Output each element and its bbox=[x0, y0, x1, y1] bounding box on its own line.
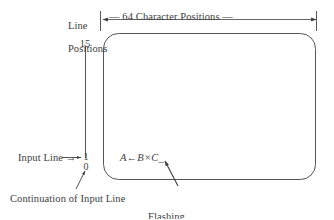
callout-label-flashing-cursor: Flashing Cursor bbox=[148, 187, 185, 219]
axis-label-line-positions-line1: Line bbox=[68, 20, 88, 31]
screen-expression-text: A←B×C_ bbox=[120, 152, 164, 163]
flashing-cursor-pointer-arrow bbox=[165, 161, 178, 186]
callout-label-input-line: Input Line → bbox=[18, 152, 76, 163]
apl-screen-diagram: Line Positions — 64 Character Positions … bbox=[0, 0, 334, 219]
callout-label-continuation-of-input-line: Continuation of Input Line bbox=[10, 193, 125, 204]
axis-tick-label-0: 0 bbox=[83, 162, 88, 173]
continuation-pointer-arrow bbox=[76, 171, 85, 189]
callout-label-flashing-cursor-line1: Flashing bbox=[148, 211, 185, 220]
apl-expression: A←B×C bbox=[120, 152, 158, 163]
dimension-label-character-positions: — 64 Character Positions — bbox=[109, 11, 233, 22]
axis-tick-label-15: 15 bbox=[80, 38, 91, 49]
text-cursor-underscore: _ bbox=[158, 152, 163, 163]
